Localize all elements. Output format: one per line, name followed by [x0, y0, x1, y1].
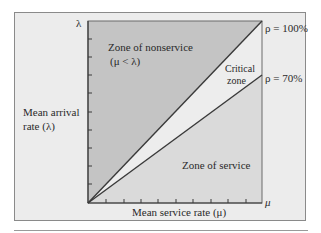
x-axis-label: Mean service rate (μ) [132, 206, 226, 218]
x-axis-symbol: μ [265, 196, 271, 208]
y-axis-label-line1: Mean arrival [23, 106, 80, 118]
critical-zone-label-line2: zone [227, 75, 246, 86]
y-axis-symbol: λ [76, 17, 81, 29]
y-axis-label-line2: rate (λ) [23, 120, 55, 132]
rho-100-label: ρ = 100% [265, 22, 308, 34]
rho-70-label: ρ = 70% [265, 72, 302, 84]
zone-nonservice-label-line2: (μ < λ) [110, 55, 140, 67]
critical-zone-label-line1: Critical [225, 63, 255, 74]
zone-nonservice-label-line1: Zone of nonservice [108, 41, 193, 53]
zone-service-label: Zone of service [182, 159, 250, 171]
